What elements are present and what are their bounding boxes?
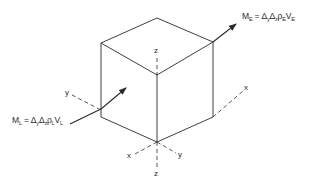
axis-label-y-bottom: y	[178, 151, 182, 159]
eq-sub: E	[291, 16, 294, 22]
cube-drawing	[0, 0, 311, 186]
eq-text: = Δ	[22, 115, 37, 125]
axis-label-z-bottom: z	[154, 170, 158, 178]
eq-text: = Δ	[252, 11, 267, 21]
axis-label-x-bottom: x	[127, 152, 131, 160]
outflow-arrow	[213, 24, 236, 42]
outflow-equation: ME = ΔyΔzρEVE	[242, 12, 295, 23]
axis-label-z-top: z	[154, 47, 158, 55]
control-volume-diagram: ME = ΔyΔzρEVE ML = ΔyΔzρLVL z z x y x y	[0, 0, 311, 186]
cube-edges	[101, 18, 213, 142]
axis-label-x-right: x	[244, 84, 248, 92]
eq-symbol: M	[12, 115, 19, 125]
inflow-equation: ML = ΔyΔzρLVL	[12, 116, 63, 127]
eq-symbol: M	[242, 11, 249, 21]
eq-sub: L	[60, 120, 63, 126]
inflow-arrow	[70, 88, 126, 124]
axis-label-y-left: y	[65, 89, 69, 97]
